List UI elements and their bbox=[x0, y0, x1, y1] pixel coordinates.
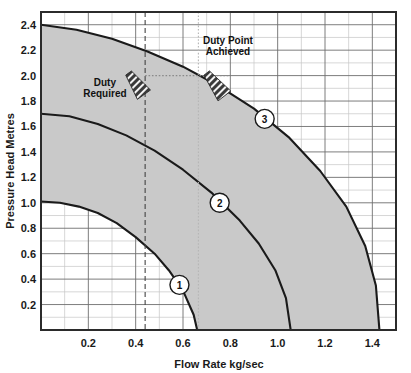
svg-text:1: 1 bbox=[177, 280, 183, 291]
x-tick-label: 0.8 bbox=[223, 337, 238, 349]
curve-marker-2: 2 bbox=[210, 193, 229, 212]
x-tick-label: 1.4 bbox=[365, 337, 381, 349]
svg-text:Required: Required bbox=[83, 88, 126, 99]
y-tick-label: 1.0 bbox=[21, 197, 36, 209]
x-tick-label: 1.2 bbox=[317, 337, 332, 349]
pump-performance-chart: 123 0.20.40.60.81.01.21.4 0.20.40.60.81.… bbox=[0, 0, 411, 373]
y-tick-label: 2.2 bbox=[21, 44, 36, 56]
y-tick-label: 1.6 bbox=[21, 120, 36, 132]
y-tick-label: 1.2 bbox=[21, 171, 36, 183]
x-tick-label: 1.0 bbox=[270, 337, 285, 349]
y-tick-label: 1.4 bbox=[21, 146, 37, 158]
curve-marker-3: 3 bbox=[255, 109, 274, 128]
y-tick-label: 2.4 bbox=[21, 19, 37, 31]
duty-point-achieved-label: Duty PointAchieved bbox=[203, 35, 254, 57]
y-tick-label: 0.4 bbox=[21, 273, 37, 285]
svg-text:Achieved: Achieved bbox=[206, 46, 250, 57]
y-tick-label: 1.8 bbox=[21, 95, 36, 107]
chart-container: 123 0.20.40.60.81.01.21.4 0.20.40.60.81.… bbox=[0, 0, 411, 373]
svg-text:2: 2 bbox=[217, 198, 223, 209]
y-tick-label: 0.8 bbox=[21, 222, 36, 234]
curve-marker-1: 1 bbox=[170, 275, 189, 294]
svg-text:3: 3 bbox=[262, 114, 268, 125]
y-tick-label: 0.6 bbox=[21, 248, 36, 260]
x-tick-label: 0.2 bbox=[81, 337, 96, 349]
y-tick-label: 0.2 bbox=[21, 299, 36, 311]
svg-text:Duty Point: Duty Point bbox=[203, 35, 254, 46]
x-tick-label: 0.4 bbox=[128, 337, 144, 349]
svg-text:Duty: Duty bbox=[94, 77, 117, 88]
x-tick-label: 0.6 bbox=[175, 337, 190, 349]
y-axis-title: Pressure Head Metres bbox=[4, 113, 16, 229]
y-axis-tick-labels: 0.20.40.60.81.01.21.41.61.82.02.22.4 bbox=[21, 19, 37, 311]
y-tick-label: 2.0 bbox=[21, 70, 36, 82]
x-axis-title: Flow Rate kg/sec bbox=[174, 358, 263, 370]
x-axis-tick-labels: 0.20.40.60.81.01.21.4 bbox=[81, 337, 381, 349]
